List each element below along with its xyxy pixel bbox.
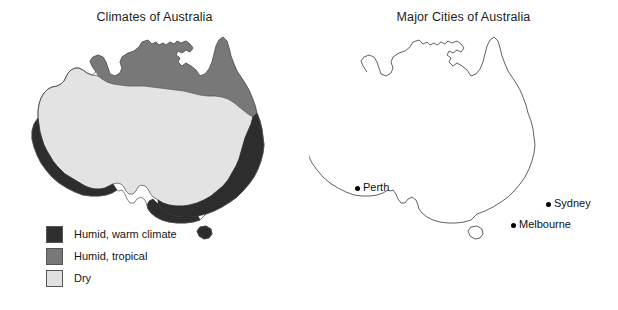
dry-swatch [46,270,63,287]
climate-legend: Humid, warm climate Humid, tropical Dry [46,226,177,287]
city-label-melbourne: Melbourne [519,219,571,230]
humid-warm-swatch [46,226,63,243]
legend-label-humid-tropical: Humid, tropical [74,251,147,262]
city-label-sydney: Sydney [554,198,591,209]
legend-label-dry: Dry [74,273,91,284]
cities-map-graphic [309,0,618,310]
legend-label-humid-warm: Humid, warm climate [74,229,177,240]
climates-panel: Climates of Australia [0,0,309,310]
tasmania-outline [468,226,483,239]
cities-panel: Major Cities of Australia Perth Sydney M… [309,0,618,310]
legend-item: Humid, warm climate [46,226,177,243]
humid-tropical-swatch [46,248,63,265]
two-panel-map-figure: Climates of Australia [0,0,618,310]
legend-item: Dry [46,270,177,287]
city-dot-sydney[interactable] [546,202,551,207]
legend-item: Humid, tropical [46,248,177,265]
australia-outline [309,37,535,223]
city-label-perth: Perth [363,182,389,193]
city-dot-perth[interactable] [355,186,360,191]
city-dot-melbourne[interactable] [511,223,516,228]
